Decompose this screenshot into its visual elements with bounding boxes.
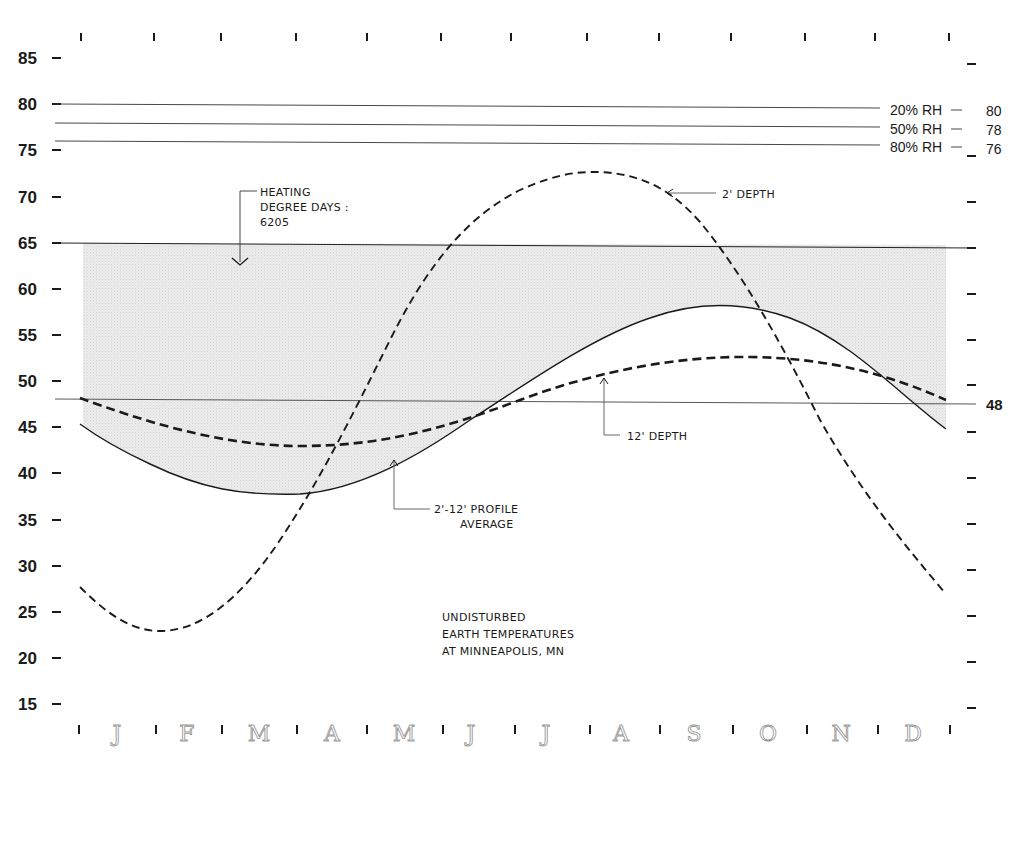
y-label: 35: [18, 511, 37, 530]
heating-label-line2: DEGREE DAYS :: [260, 201, 349, 214]
rh20-line: [55, 104, 880, 108]
rh50-value: 78: [986, 122, 1002, 138]
heating-label-line1: HEATING: [260, 186, 311, 199]
month-axis: J F M A M J J A S O N D: [111, 721, 922, 746]
month-label: J: [540, 721, 551, 746]
depth-2ft-annotation: 2' DEPTH: [667, 188, 775, 201]
y-label: 80: [18, 95, 37, 114]
month-label: M: [393, 721, 416, 746]
y-label: 65: [18, 234, 37, 253]
y-label: 40: [18, 464, 37, 483]
y-label: 50: [18, 372, 37, 391]
month-label: M: [248, 721, 271, 746]
month-label: A: [323, 721, 341, 746]
top-ticks: [81, 33, 949, 41]
rh80-value: 76: [986, 141, 1002, 157]
month-label: O: [759, 721, 777, 746]
rh50-line: [55, 123, 880, 127]
y-ticks-left: [52, 58, 61, 704]
mean-48-value: 48: [986, 396, 1003, 413]
month-label: S: [686, 721, 701, 746]
y-label: 75: [18, 141, 37, 160]
y-label: 60: [18, 280, 37, 299]
caption-line2: EARTH TEMPERATURES: [442, 628, 574, 641]
y-ticks-right: [967, 64, 976, 708]
y-label: 25: [18, 603, 37, 622]
rh-reference-lines: [55, 104, 962, 147]
rh50-label: 50% RH: [890, 121, 942, 137]
y-label: 30: [18, 557, 37, 576]
month-label: J: [111, 721, 122, 746]
chart-caption: UNDISTURBED EARTH TEMPERATURES AT MINNEA…: [442, 611, 574, 658]
earth-temperature-chart: 85 80 75 70 65 60 55 50 45 40 35 30 25 2…: [0, 0, 1012, 844]
rh80-label: 80% RH: [890, 139, 942, 155]
rh20-value: 80: [986, 103, 1002, 119]
rh20-label: 20% RH: [890, 102, 942, 118]
month-label: F: [179, 721, 194, 746]
heating-label-value: 6205: [260, 216, 289, 229]
bottom-ticks: [79, 725, 950, 734]
depth-12ft-annotation: 12' DEPTH: [600, 378, 687, 443]
y-label: 55: [18, 326, 37, 345]
y-label: 45: [18, 418, 37, 437]
profile-label-line2: AVERAGE: [460, 518, 513, 531]
y-label: 15: [18, 695, 37, 714]
heating-degree-days-area: [83, 243, 946, 494]
y-axis-left: 85 80 75 70 65 60 55 50 45 40 35 30 25 2…: [18, 49, 37, 714]
y-label: 70: [18, 188, 37, 207]
profile-label-line1: 2'-12' PROFILE: [434, 503, 518, 516]
profile-average-annotation: 2'-12' PROFILE AVERAGE: [390, 460, 518, 531]
month-label: N: [831, 721, 850, 746]
caption-line1: UNDISTURBED: [442, 611, 526, 624]
depth-2ft-label: 2' DEPTH: [722, 188, 775, 201]
y-label: 20: [18, 649, 37, 668]
month-label: D: [904, 721, 922, 746]
month-label: A: [612, 721, 630, 746]
caption-line3: AT MINNEAPOLIS, MN: [442, 645, 564, 658]
rh80-line: [55, 141, 880, 145]
depth-12ft-label: 12' DEPTH: [627, 430, 687, 443]
month-label: J: [465, 721, 476, 746]
y-label: 85: [18, 49, 37, 68]
